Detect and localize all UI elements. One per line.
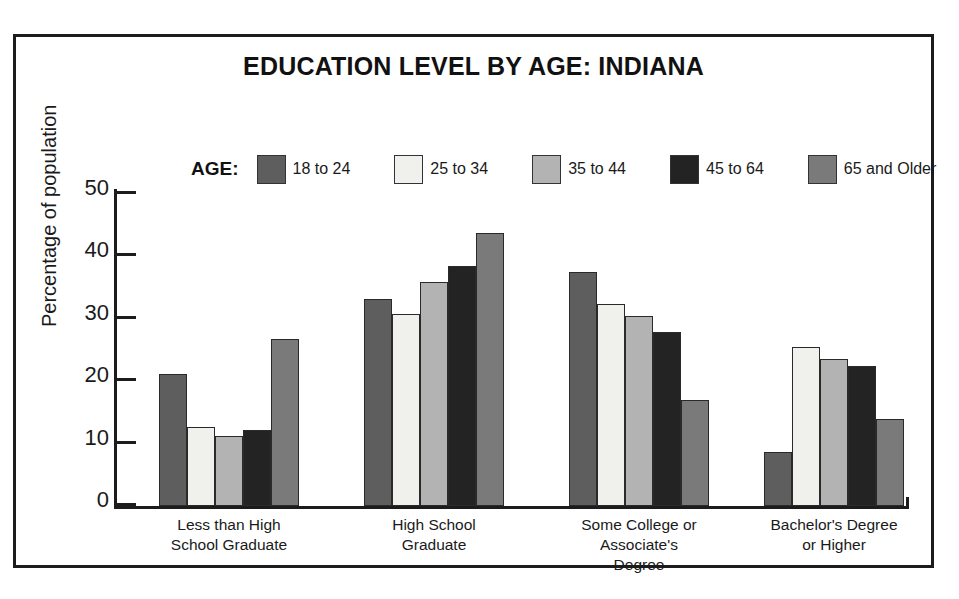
bar[interactable] [476, 233, 504, 506]
bar-group: Some College or Associate's Degree [569, 189, 709, 506]
bar[interactable] [392, 314, 420, 506]
legend-swatch-icon [257, 155, 286, 184]
bar[interactable] [215, 436, 243, 506]
legend-item[interactable]: 65 and Older [808, 155, 937, 184]
x-axis-category-label: Bachelor's Degree or Higher [739, 515, 929, 555]
legend-item[interactable]: 25 to 34 [394, 155, 488, 184]
legend-label: 65 and Older [844, 160, 937, 178]
bars-row [569, 189, 709, 506]
y-axis-tick: 20 [117, 378, 136, 381]
bars-row [159, 189, 299, 506]
bar[interactable] [243, 430, 271, 506]
bar[interactable] [681, 400, 709, 506]
bars-row [764, 189, 904, 506]
x-axis-end-tick [906, 497, 909, 509]
legend-title: AGE: [191, 158, 239, 180]
legend-items: 18 to 2425 to 3435 to 4445 to 6465 and O… [257, 155, 959, 184]
x-axis-category-label: High School Graduate [339, 515, 529, 555]
plot-area: 01020304050 Less than High School Gradua… [114, 189, 909, 509]
y-axis-tick-label: 30 [65, 302, 109, 324]
bar[interactable] [876, 419, 904, 506]
chart-title: EDUCATION LEVEL BY AGE: INDIANA [16, 52, 931, 81]
legend-label: 45 to 64 [706, 160, 764, 178]
bar[interactable] [271, 339, 299, 506]
legend-item[interactable]: 18 to 24 [257, 155, 351, 184]
bar[interactable] [187, 427, 215, 506]
y-axis-title: Percentage of population [38, 105, 61, 327]
bar[interactable] [364, 299, 392, 506]
legend-item[interactable]: 35 to 44 [532, 155, 626, 184]
legend-item[interactable]: 45 to 64 [670, 155, 764, 184]
legend-label: 25 to 34 [430, 160, 488, 178]
y-axis-tick: 10 [117, 441, 136, 444]
chart-frame: EDUCATION LEVEL BY AGE: INDIANA AGE: 18 … [13, 34, 934, 568]
bar[interactable] [597, 304, 625, 506]
legend-label: 35 to 44 [568, 160, 626, 178]
bars-row [364, 189, 504, 506]
y-axis-tick-label: 10 [65, 427, 109, 449]
bar[interactable] [569, 272, 597, 506]
y-axis-tick-label: 40 [65, 239, 109, 261]
x-axis-category-label: Some College or Associate's Degree [544, 515, 734, 574]
x-axis-line [114, 506, 909, 509]
legend-label: 18 to 24 [293, 160, 351, 178]
y-axis-tick: 30 [117, 316, 136, 319]
bar[interactable] [159, 374, 187, 506]
bar[interactable] [820, 359, 848, 506]
y-axis-line [114, 189, 117, 509]
bar[interactable] [848, 366, 876, 507]
bar[interactable] [448, 266, 476, 506]
y-axis-tick-label: 20 [65, 364, 109, 386]
bar[interactable] [764, 452, 792, 506]
bar-group: Bachelor's Degree or Higher [764, 189, 904, 506]
y-axis-tick: 0 [117, 503, 136, 506]
bar[interactable] [792, 347, 820, 506]
y-axis-tick-label: 0 [65, 489, 109, 511]
x-axis-category-label: Less than High School Graduate [134, 515, 324, 555]
legend-swatch-icon [394, 155, 423, 184]
bar-group: High School Graduate [364, 189, 504, 506]
y-axis-tick-label: 50 [65, 177, 109, 199]
chart-legend: AGE: 18 to 2425 to 3435 to 4445 to 6465 … [16, 152, 931, 186]
y-axis-tick: 50 [117, 191, 136, 194]
bar-group: Less than High School Graduate [159, 189, 299, 506]
bar[interactable] [420, 282, 448, 506]
y-axis-tick: 40 [117, 253, 136, 256]
bar[interactable] [625, 316, 653, 506]
bar[interactable] [653, 332, 681, 506]
legend-swatch-icon [670, 155, 699, 184]
legend-swatch-icon [532, 155, 561, 184]
legend-swatch-icon [808, 155, 837, 184]
